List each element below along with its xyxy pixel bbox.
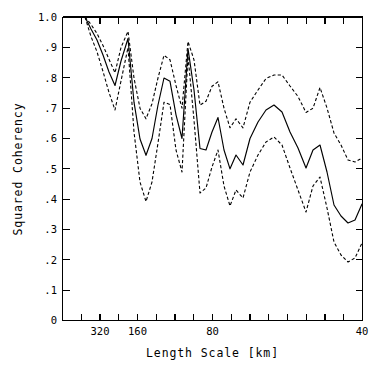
x-tick-label-320: 320: [91, 325, 110, 337]
data-curves: [85, 17, 362, 262]
y-tick-label-6: .6: [44, 132, 57, 144]
x-tick-label-80: 80: [206, 325, 219, 337]
chart-canvas: 0 .1 .2 .3 .4 .5 .6 .7 .8 .9 1.0 320 160…: [0, 0, 385, 379]
plot-frame: [63, 17, 363, 321]
y-tick-label-5: .5: [44, 163, 57, 175]
x-tick-label-40: 40: [356, 325, 369, 337]
y-tick-label-0: 0: [51, 314, 57, 326]
x-axis-title: Length Scale [km]: [146, 346, 279, 360]
x-axis-bottom-ticks: [81, 314, 344, 321]
y-tick-label-10: 1.0: [38, 11, 57, 23]
coherency-figure: 0 .1 .2 .3 .4 .5 .6 .7 .8 .9 1.0 320 160…: [0, 0, 385, 379]
upper-confidence-curve: [85, 17, 362, 162]
y-tick-label-4: .4: [44, 193, 57, 205]
y-tick-label-3: .3: [44, 223, 57, 235]
mean-coherency-curve: [85, 17, 362, 223]
y-tick-label-1: .1: [44, 284, 57, 296]
x-axis-top-ticks: [81, 17, 344, 24]
lower-confidence-curve: [85, 17, 362, 262]
x-tick-label-160: 160: [128, 325, 147, 337]
y-axis-title: Squared Coherency: [11, 102, 25, 235]
y-axis-right-ticks: [356, 18, 363, 321]
y-tick-label-2: .2: [44, 254, 57, 266]
y-tick-label-8: .8: [44, 72, 57, 84]
y-tick-label-9: .9: [44, 41, 57, 53]
y-tick-label-7: .7: [44, 102, 57, 114]
y-tick-labels: 0 .1 .2 .3 .4 .5 .6 .7 .8 .9 1.0: [38, 11, 57, 326]
x-tick-labels: 320 160 80 40: [91, 325, 369, 337]
y-axis-major-ticks: [63, 18, 70, 321]
